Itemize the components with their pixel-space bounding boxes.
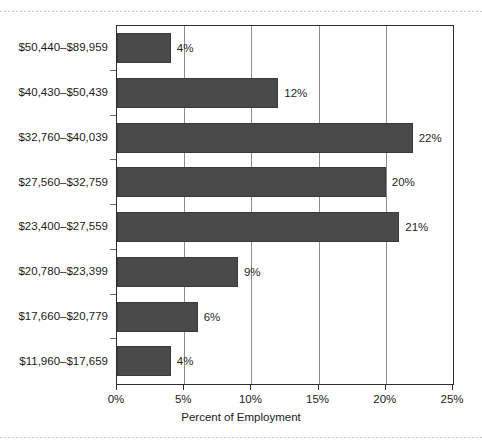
category-tick [110, 159, 116, 160]
category-label: $32,760–$40,039 [4, 130, 108, 144]
category-tick [110, 70, 116, 71]
bar-row: 4% [117, 339, 453, 384]
category-tick [110, 204, 116, 205]
bar-rows: 4%12%22%20%21%9%6%4% [117, 26, 453, 384]
x-tick-label: 10% [228, 392, 272, 406]
bar [117, 257, 238, 287]
bar [117, 302, 198, 332]
category-tick [110, 249, 116, 250]
plot-area: 4%12%22%20%21%9%6%4% [116, 25, 454, 385]
category-label: $50,440–$89,959 [4, 40, 108, 54]
bar [117, 346, 171, 376]
bar-row: 20% [117, 160, 453, 205]
scan-artifact-line-top [0, 11, 482, 12]
bar-chart-figure: $50,440–$89,959$40,430–$50,439$32,760–$4… [0, 0, 482, 443]
x-tick-15 [318, 384, 319, 390]
x-tick-label: 20% [363, 392, 407, 406]
bar-value-label: 20% [392, 171, 415, 193]
bar-row: 9% [117, 250, 453, 295]
x-tick-25 [452, 384, 453, 390]
bar-value-label: 4% [177, 37, 194, 59]
category-label: $23,400–$27,559 [4, 219, 108, 233]
category-tick [110, 294, 116, 295]
bar [117, 123, 413, 153]
bar-row: 21% [117, 205, 453, 250]
bar-value-label: 6% [204, 306, 221, 328]
bar-value-label: 21% [405, 216, 428, 238]
x-tick-label: 5% [161, 392, 205, 406]
bar [117, 212, 399, 242]
bar-value-label: 12% [284, 82, 307, 104]
x-axis-title: Percent of Employment [0, 411, 482, 423]
x-tick-5 [183, 384, 184, 390]
bar [117, 33, 171, 63]
x-tick-label: 15% [296, 392, 340, 406]
category-tick [110, 338, 116, 339]
x-tick-10 [250, 384, 251, 390]
scan-artifact-line-bottom [0, 437, 482, 438]
bar-row: 22% [117, 116, 453, 161]
category-tick [110, 115, 116, 116]
bar-row: 6% [117, 295, 453, 340]
category-label: $20,780–$23,399 [4, 264, 108, 278]
bar [117, 78, 278, 108]
x-tick-label: 0% [94, 392, 138, 406]
x-tick-0 [116, 384, 117, 390]
x-tick-20 [385, 384, 386, 390]
category-label: $27,560–$32,759 [4, 175, 108, 189]
category-axis-labels: $50,440–$89,959$40,430–$50,439$32,760–$4… [0, 25, 108, 383]
bar-value-label: 4% [177, 350, 194, 372]
x-tick-label: 25% [430, 392, 474, 406]
category-label: $17,660–$20,779 [4, 309, 108, 323]
category-label: $40,430–$50,439 [4, 85, 108, 99]
bar-row: 4% [117, 26, 453, 71]
category-label: $11,960–$17,659 [4, 354, 108, 368]
bar-value-label: 9% [244, 261, 261, 283]
bar [117, 167, 386, 197]
bar-row: 12% [117, 71, 453, 116]
bar-value-label: 22% [419, 127, 442, 149]
